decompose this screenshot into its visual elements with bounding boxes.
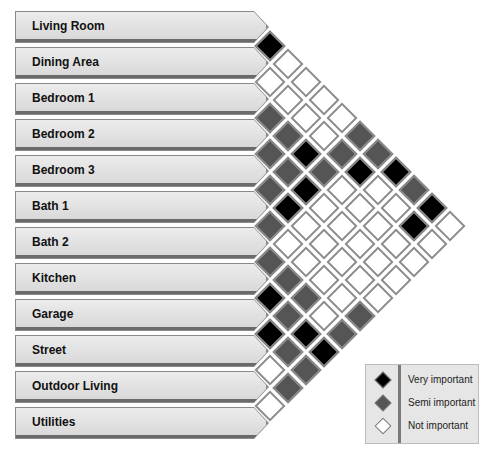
- row-label-bath-2: Bath 2: [16, 228, 266, 258]
- row-label-text: Kitchen: [32, 271, 76, 285]
- row-label-text: Outdoor Living: [32, 379, 118, 393]
- black-diamond-icon: [375, 372, 392, 389]
- row-label-text: Bedroom 1: [32, 91, 95, 105]
- row-label-utilities: Utilities: [16, 408, 266, 438]
- row-label-bedroom-1: Bedroom 1: [16, 84, 266, 114]
- row-label-kitchen: Kitchen: [16, 264, 266, 294]
- legend-label: Very important: [408, 374, 472, 385]
- legend-label: Semi important: [408, 397, 475, 408]
- row-label-text: Utilities: [32, 415, 75, 429]
- legend-item-very-important: Very important: [366, 369, 478, 391]
- legend: Very important Semi important Not import…: [365, 364, 479, 444]
- row-label-text: Dining Area: [32, 55, 99, 69]
- row-label-text: Bedroom 2: [32, 127, 95, 141]
- legend-label: Not important: [408, 420, 468, 431]
- row-label-text: Bedroom 3: [32, 163, 95, 177]
- row-label-bedroom-3: Bedroom 3: [16, 156, 266, 186]
- row-label-street: Street: [16, 336, 266, 366]
- row-label-dining-area: Dining Area: [16, 48, 266, 78]
- row-label-living-room: Living Room: [16, 12, 266, 42]
- adjacency-matrix-diagram: Living RoomDining AreaBedroom 1Bedroom 2…: [0, 0, 492, 455]
- row-label-bath-1: Bath 1: [16, 192, 266, 222]
- gray-diamond-icon: [375, 395, 392, 412]
- row-label-garage: Garage: [16, 300, 266, 330]
- row-label-text: Street: [32, 343, 66, 357]
- row-label-text: Living Room: [32, 19, 105, 33]
- legend-item-semi-important: Semi important: [366, 392, 478, 414]
- legend-item-not-important: Not important: [366, 415, 478, 437]
- row-label-text: Bath 1: [32, 199, 69, 213]
- row-label-text: Garage: [32, 307, 73, 321]
- row-label-text: Bath 2: [32, 235, 69, 249]
- row-label-bedroom-2: Bedroom 2: [16, 120, 266, 150]
- row-label-outdoor-living: Outdoor Living: [16, 372, 266, 402]
- white-diamond-icon: [375, 418, 392, 435]
